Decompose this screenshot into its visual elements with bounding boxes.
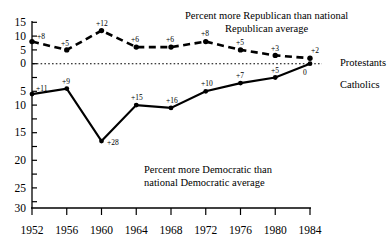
annotation-republican-line2: Republican average — [185, 22, 348, 35]
data-label-catholics-1952: +11 — [36, 85, 47, 93]
annotation-democratic: Percent more Democratic than national De… — [144, 163, 272, 189]
data-label-catholics-1972: +10 — [201, 80, 213, 88]
data-label-catholics-1960: +28 — [107, 139, 119, 147]
data-label-catholics-1956: +9 — [62, 78, 70, 86]
x-axis-ticks — [32, 208, 310, 215]
data-label-protestants-1956: +5 — [61, 40, 69, 48]
data-label-catholics-1968: +16 — [166, 97, 178, 105]
data-label-catholics-1964: +15 — [131, 94, 143, 102]
y-tick-label-15-bottom: 15 — [4, 127, 26, 139]
data-label-protestants-1984: +2 — [311, 47, 319, 55]
y-tick-label-20: 20 — [4, 155, 26, 167]
data-label-catholics-1984: 0 — [303, 69, 307, 77]
annotation-democratic-line1: Percent more Democratic than — [144, 163, 272, 176]
chart-plot-area — [0, 0, 390, 244]
data-label-protestants-1976: +5 — [236, 39, 244, 47]
annotation-republican-line1: Percent more Republican than national — [185, 9, 348, 22]
y-tick-label-5-bottom: 5 — [4, 86, 26, 98]
data-label-protestants-1964: +6 — [131, 36, 139, 44]
data-label-protestants-1952: +8 — [37, 33, 45, 41]
data-label-protestants-1960: +12 — [96, 20, 108, 28]
y-tick-label-10-top: 10 — [4, 31, 26, 43]
data-label-catholics-1980: +5 — [271, 67, 279, 75]
x-tick-label-1984: 1984 — [290, 225, 330, 237]
y-tick-label-0: 0 — [4, 58, 26, 70]
data-label-protestants-1968: +6 — [166, 36, 174, 44]
annotation-democratic-line2: national Democratic average — [144, 176, 272, 189]
data-label-protestants-1980: +3 — [271, 45, 279, 53]
series-label-protestants: Protestants — [340, 58, 386, 69]
y-axis-ticks — [32, 22, 37, 201]
series-label-catholics: Catholics — [340, 80, 380, 91]
data-label-catholics-1976: +7 — [236, 72, 244, 80]
y-tick-label-30: 30 — [4, 203, 26, 215]
y-tick-label-5-top: 5 — [4, 45, 26, 57]
y-tick-label-10-bottom: 10 — [4, 100, 26, 112]
y-tick-label-25: 25 — [4, 183, 26, 195]
y-tick-label-15-top: 15 — [4, 17, 26, 29]
chart-figure: 15 10 5 0 5 10 15 20 25 30 1952 1956 196… — [0, 0, 390, 244]
annotation-republican: Percent more Republican than national Re… — [185, 9, 348, 35]
